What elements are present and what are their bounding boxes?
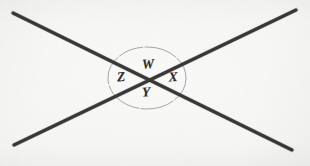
line-up-right-bleed	[14, 10, 296, 145]
diagram-page: W X Y Z	[0, 0, 310, 166]
intersecting-lines-diagram	[0, 0, 310, 166]
line-ink-bleed	[13, 10, 296, 150]
